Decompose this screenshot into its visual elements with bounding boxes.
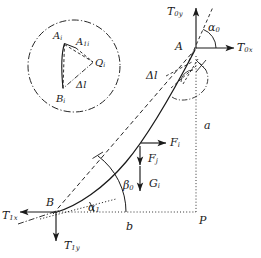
delta-l-leader-2 [171,66,196,88]
inset-line-A1i-Qi [76,48,93,62]
label-T0y: T0y [167,6,183,18]
label-point-B: B [46,197,54,208]
label-T1x: T1x [2,210,18,222]
label-delta-l-main: Δl [146,70,157,81]
label-dimension-a: a [204,120,211,131]
label-inset-Bi: Bi [56,94,65,104]
label-alpha1: α1 [88,202,100,214]
label-inset-A1i: A1i [76,37,89,47]
label-point-A: A [175,41,183,52]
label-Gi: Gi [149,178,160,190]
label-Fj: Fj [148,153,158,165]
inset-boundary-circle [28,20,120,112]
label-T1y: T1y [64,240,80,252]
label-inset-delta-l: Δl [76,80,86,90]
label-inset-Ai: Ai [53,31,62,41]
label-inset-Qi: Qi [95,58,105,68]
catenary-force-diagram: T0y α0 A T0x Δl a Fi Fj Gi β0 B α1 T1x P… [0,0,261,258]
label-dimension-b: b [126,221,133,232]
angle-arc-beta0 [98,156,126,212]
label-T0x: T0x [237,42,253,54]
label-Fi: Fi [170,137,180,149]
label-beta0: β0 [123,180,134,192]
label-alpha0: α0 [208,22,220,34]
label-point-P: P [199,215,206,226]
